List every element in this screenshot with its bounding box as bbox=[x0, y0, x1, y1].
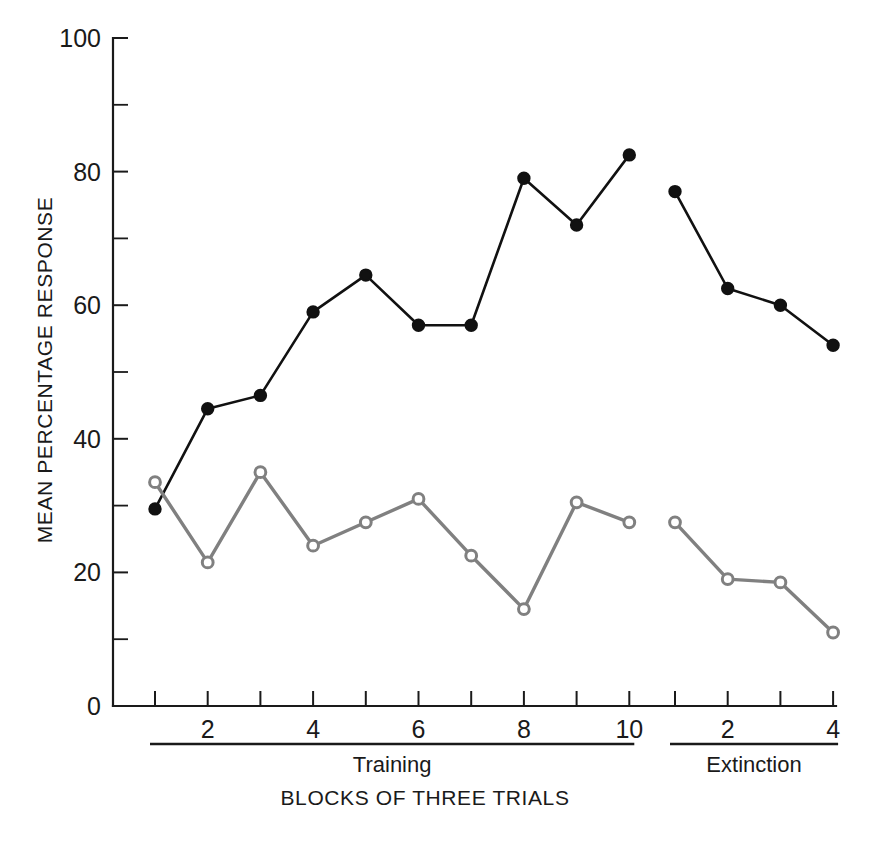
chart-background bbox=[0, 0, 872, 843]
data-point-filled-circles: 29.5 bbox=[149, 503, 160, 514]
data-point-filled-circles: 46.5 bbox=[255, 390, 266, 401]
y-ticklabel: 40 bbox=[73, 425, 101, 453]
data-point-open-circles: 19 bbox=[722, 574, 733, 585]
x-ticklabel: 2 bbox=[721, 715, 735, 743]
data-point-filled-circles: 57 bbox=[413, 320, 424, 331]
data-point-filled-circles: 79 bbox=[518, 173, 529, 184]
data-point-open-circles: 35 bbox=[255, 467, 266, 478]
y-ticklabel: 60 bbox=[73, 291, 101, 319]
x-axis-title: BLOCKS OF THREE TRIALS bbox=[281, 786, 570, 809]
line-chart: 020406080100 MEAN PERCENTAGE RESPONSE 24… bbox=[0, 0, 872, 843]
data-point-open-circles: 30.5 bbox=[571, 497, 582, 508]
y-ticklabel: 20 bbox=[73, 558, 101, 586]
data-point-filled-circles: 72 bbox=[571, 219, 582, 230]
data-point-filled-circles: 82.5 bbox=[624, 149, 635, 160]
data-point-open-circles: 14.5 bbox=[519, 604, 530, 615]
data-point-open-circles: 27.5 bbox=[670, 517, 681, 528]
x-ticklabel: 4 bbox=[826, 715, 840, 743]
data-point-open-circles: 22.5 bbox=[466, 550, 477, 561]
data-point-filled-circles: 54 bbox=[828, 340, 839, 351]
y-ticklabel: 80 bbox=[73, 158, 101, 186]
x-ticklabel: 6 bbox=[412, 715, 426, 743]
data-point-filled-circles: 77 bbox=[669, 186, 680, 197]
data-point-filled-circles: 62.5 bbox=[722, 283, 733, 294]
figure-container: 020406080100 MEAN PERCENTAGE RESPONSE 24… bbox=[0, 0, 872, 843]
data-point-filled-circles: 64.5 bbox=[360, 270, 371, 281]
data-point-filled-circles: 44.5 bbox=[202, 403, 213, 414]
phase-label-training: Training bbox=[353, 752, 432, 777]
y-ticklabel: 0 bbox=[87, 692, 101, 720]
data-point-open-circles: 24 bbox=[308, 540, 319, 551]
data-point-open-circles: 21.5 bbox=[202, 557, 213, 568]
data-point-open-circles: 18.5 bbox=[775, 577, 786, 588]
x-ticklabel: 8 bbox=[517, 715, 531, 743]
x-ticklabel: 2 bbox=[201, 715, 215, 743]
data-point-open-circles: 27.5 bbox=[360, 517, 371, 528]
data-point-filled-circles: 57 bbox=[466, 320, 477, 331]
y-ticklabel: 100 bbox=[59, 24, 101, 52]
data-point-open-circles: 27.5 bbox=[624, 517, 635, 528]
y-axis-title: MEAN PERCENTAGE RESPONSE bbox=[33, 197, 56, 544]
x-ticklabel: 4 bbox=[306, 715, 320, 743]
data-point-open-circles: 33.5 bbox=[150, 477, 161, 488]
data-point-filled-circles: 60 bbox=[775, 300, 786, 311]
data-point-open-circles: 31 bbox=[413, 494, 424, 505]
data-point-open-circles: 11 bbox=[828, 627, 839, 638]
phase-label-extinction: Extinction bbox=[706, 752, 801, 777]
x-ticklabel: 10 bbox=[615, 715, 643, 743]
data-point-filled-circles: 59 bbox=[308, 306, 319, 317]
